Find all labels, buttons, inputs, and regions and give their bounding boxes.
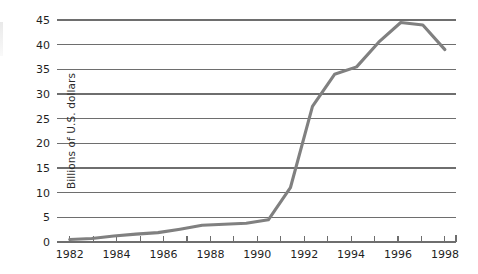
x-tick-label: 1996 <box>384 248 412 261</box>
y-axis-title: Billions of U.S. dollars <box>65 46 77 216</box>
y-tick-label: 25 <box>36 112 50 125</box>
x-tick-label: 1984 <box>103 248 131 261</box>
y-tick-label: 5 <box>43 211 50 224</box>
y-tick-label: 0 <box>43 236 50 249</box>
x-tick-label: 1988 <box>196 248 224 261</box>
x-axis-ticks <box>70 236 445 242</box>
y-tick-label: 20 <box>36 137 50 150</box>
y-tick-label: 45 <box>36 14 50 27</box>
y-tick-label: 40 <box>36 38 50 51</box>
y-axis-tick-labels: 0 5 10 15 20 25 30 35 40 45 Billions of … <box>30 20 50 242</box>
x-tick-label: 1992 <box>290 248 318 261</box>
y-tick-label: 15 <box>36 162 50 175</box>
y-tick-label: 35 <box>36 63 50 76</box>
data-series-line <box>70 22 445 239</box>
y-tick-label: 30 <box>36 88 50 101</box>
x-tick-label: 1990 <box>243 248 271 261</box>
x-tick-label: 1994 <box>337 248 365 261</box>
gridlines <box>57 20 456 217</box>
y-tick-label: 10 <box>36 186 50 199</box>
x-tick-label: 1986 <box>150 248 178 261</box>
scan-artifact <box>0 22 3 56</box>
x-tick-label: 1998 <box>431 248 459 261</box>
x-tick-label: 1982 <box>56 248 84 261</box>
chart-container: 0 5 10 15 20 25 30 35 40 45 Billions of … <box>0 0 478 274</box>
